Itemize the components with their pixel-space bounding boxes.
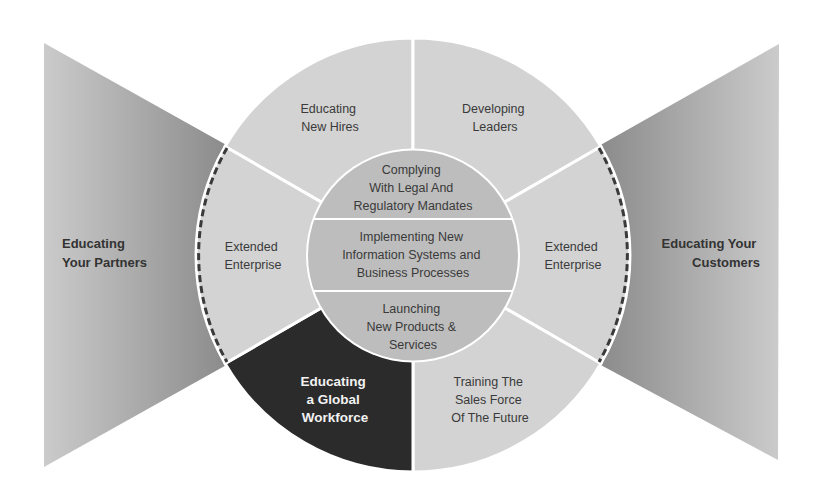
- inner-band-middle-label: Implementing New Information Systems and…: [342, 230, 484, 280]
- segment-bottom-right-label: Training The Sales Force Of The Future: [451, 375, 529, 425]
- segment-bottom-left-label: Educating a Global Workforce: [300, 374, 369, 425]
- learning-diagram: Educating Your Partners Educating Your C…: [0, 0, 818, 499]
